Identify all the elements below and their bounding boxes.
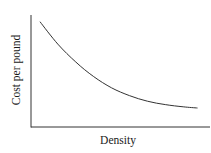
- x-axis-label: Density: [100, 134, 136, 147]
- cost-density-curve: [40, 22, 198, 108]
- y-axis-label: Cost per pound: [10, 35, 23, 106]
- chart: Density Cost per pound: [0, 0, 211, 153]
